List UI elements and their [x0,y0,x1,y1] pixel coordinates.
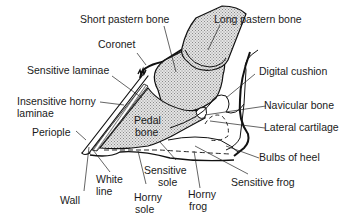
label-sensitive-laminae: Sensitive laminae [27,65,109,76]
label-navicular-bone: Navicular bone [264,100,334,111]
label-sensitive-sole-1: Sensitive [144,165,187,176]
label-horny-sole-1: Horny [134,192,162,203]
label-short-pastern-bone: Short pastern bone [80,14,169,25]
label-horny-frog-1: Horny [188,189,216,200]
label-periople: Periople [32,127,71,138]
label-horny-frog-2: frog [189,201,207,212]
label-coronet: Coronet [98,39,135,50]
lateral-cartilage-line [205,115,228,141]
label-white-line-1: White [96,174,123,185]
label-digital-cushion: Digital cushion [259,66,327,77]
label-sensitive-frog: Sensitive frog [231,177,295,188]
heel-back [234,52,250,156]
label-wall: Wall [60,195,80,206]
label-long-pastern-bone: Long pastern bone [214,14,302,25]
label-insensitive-horny-laminae-1: Insensitive horny [17,96,96,107]
label-pedal-bone-1: Pedal [134,115,161,126]
label-horny-sole-2: sole [135,204,154,215]
label-sensitive-sole-2: sole [158,177,177,188]
label-white-line-2: line [96,186,112,197]
label-insensitive-horny-laminae-2: laminae [17,108,54,119]
label-bulbs-of-heel: Bulbs of heel [259,152,320,163]
label-pedal-bone-2: bone [135,127,158,138]
label-lateral-cartilage: Lateral cartilage [264,122,339,133]
